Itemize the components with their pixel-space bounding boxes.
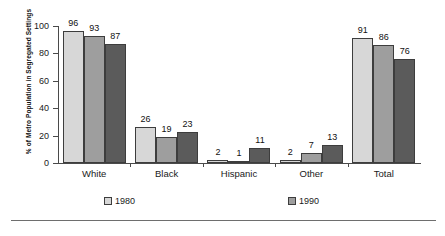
bar-value-label: 93 — [89, 24, 99, 33]
bar-group-bars: 969387 — [58, 26, 130, 163]
bar-group: 2111 — [203, 26, 275, 163]
y-axis-tick-label: 0 — [0, 159, 49, 168]
x-axis-tick — [275, 163, 276, 167]
plot-area: 96938726192321112713918676 — [58, 26, 420, 163]
x-axis-label-black: Black — [130, 168, 202, 179]
bar-white-1990[interactable]: 93 — [84, 36, 105, 163]
bar-group: 261923 — [130, 26, 202, 163]
legend-label: 1990 — [299, 196, 319, 206]
bar-value-label: 23 — [183, 120, 193, 129]
bar-total-1980[interactable]: 91 — [352, 38, 373, 163]
y-axis-tick-label: 80 — [0, 49, 49, 58]
bar-group: 2713 — [275, 26, 347, 163]
bar-value-label: 2 — [215, 148, 220, 157]
y-axis-tick — [53, 163, 58, 164]
x-axis-label-hispanic: Hispanic — [203, 168, 275, 179]
bar-white-2000[interactable]: 87 — [105, 44, 126, 163]
bar-value-label: 86 — [379, 33, 389, 42]
bar-value-label: 87 — [110, 32, 120, 41]
bar-total-2000[interactable]: 76 — [394, 59, 415, 163]
x-axis-label-total: Total — [348, 168, 420, 179]
bar-value-label: 91 — [358, 26, 368, 35]
bar-value-label: 2 — [288, 148, 293, 157]
bar-other-2000[interactable]: 13 — [322, 145, 343, 163]
bar-value-label: 13 — [327, 133, 337, 142]
legend-item-1990[interactable]: 1990 — [288, 196, 319, 206]
bar-group-bars: 2713 — [275, 26, 347, 163]
bar-value-label: 76 — [400, 47, 410, 56]
bar-value-label: 26 — [141, 115, 151, 124]
bar-value-label: 11 — [255, 136, 264, 145]
bar-hispanic-2000[interactable]: 11 — [249, 148, 270, 163]
bar-value-label: 7 — [309, 141, 314, 150]
bar-value-label: 19 — [162, 125, 172, 134]
bar-total-1990[interactable]: 86 — [373, 45, 394, 163]
legend-item-1980[interactable]: 1980 — [104, 196, 135, 206]
bar-white-1980[interactable]: 96 — [63, 31, 84, 163]
legend-swatch-icon — [104, 197, 112, 205]
y-axis-tick-label: 60 — [0, 76, 49, 85]
bar-group: 918676 — [348, 26, 420, 163]
bar-group-bars: 2111 — [203, 26, 275, 163]
bar-black-2000[interactable]: 23 — [177, 132, 198, 164]
x-axis-label-white: White — [58, 168, 130, 179]
x-axis-line — [58, 163, 421, 164]
y-axis-tick-label: 40 — [0, 104, 49, 113]
bar-hispanic-1990[interactable]: 1 — [228, 161, 249, 163]
bar-value-label: 96 — [68, 19, 78, 28]
bar-other-1990[interactable]: 7 — [301, 153, 322, 163]
bottom-divider — [11, 220, 436, 221]
bar-value-label: 1 — [236, 149, 241, 158]
bar-group-bars: 261923 — [130, 26, 202, 163]
legend-swatch-icon — [288, 197, 296, 205]
x-axis-label-other: Other — [275, 168, 347, 179]
legend-label: 1980 — [115, 196, 135, 206]
x-axis-tick — [203, 163, 204, 167]
bar-hispanic-1980[interactable]: 2 — [207, 160, 228, 163]
bar-group-bars: 918676 — [348, 26, 420, 163]
bar-black-1990[interactable]: 19 — [156, 137, 177, 163]
x-axis-tick — [348, 163, 349, 167]
bar-group: 969387 — [58, 26, 130, 163]
x-axis-tick — [130, 163, 131, 167]
bar-other-1980[interactable]: 2 — [280, 160, 301, 163]
segregated-settings-bar-chart: % of Metro Population in Segregated Sett… — [0, 0, 445, 236]
bar-black-1980[interactable]: 26 — [135, 127, 156, 163]
y-axis-tick-label: 100 — [0, 22, 49, 31]
chart-legend: 198019902000 — [58, 196, 421, 210]
y-axis-tick-label: 20 — [0, 131, 49, 140]
